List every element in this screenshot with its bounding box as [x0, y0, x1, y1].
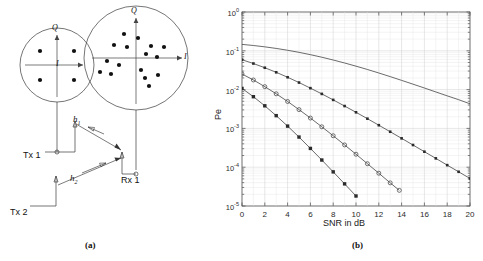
panel-a-caption: (a): [85, 240, 96, 250]
ber-chart-svg: [205, 0, 483, 230]
tx2-antenna: [30, 176, 58, 206]
marker-diversity-order-2: [423, 150, 426, 153]
marker-diversity-order-2: [366, 117, 369, 120]
tx2-label: Tx 2: [10, 207, 28, 217]
small-q-arrowhead: [55, 35, 60, 40]
large-constellation-points: [98, 32, 166, 88]
marker-diversity-order-4: [252, 95, 255, 98]
marker-diversity-order-4: [343, 182, 346, 185]
marker-diversity-order-4: [263, 104, 266, 107]
y-tick-label: 10-2: [205, 85, 239, 96]
marker-diversity-order-4: [354, 194, 357, 197]
marker-diversity-order-2: [389, 130, 392, 133]
channel-h1-path: [76, 124, 121, 150]
marker-diversity-order-2: [332, 99, 335, 102]
figure-root: Tx 1 Tx 2 Rx 1 h1 h2 I Q I Q (a) 10010-1…: [0, 0, 483, 261]
channel-h2-label: h2: [70, 173, 78, 185]
tx1-antenna: [45, 121, 77, 154]
rx1-label: Rx 1: [121, 175, 140, 185]
marker-diversity-order-2: [469, 177, 472, 180]
y-tick-label: 10-1: [205, 46, 239, 57]
rx1-antenna: [120, 152, 138, 176]
marker-diversity-order-2: [378, 124, 381, 127]
channel-h1-label: h1: [73, 114, 81, 126]
marker-diversity-order-2: [412, 144, 415, 147]
marker-diversity-order-4: [309, 147, 312, 150]
large-q-arrowhead: [134, 18, 139, 23]
marker-diversity-order-2: [264, 66, 267, 69]
small-i-arrowhead: [78, 63, 83, 68]
marker-diversity-order-2: [275, 71, 278, 74]
large-i-axis-label: I: [184, 52, 187, 61]
marker-diversity-order-2: [400, 137, 403, 140]
marker-diversity-order-4: [275, 114, 278, 117]
tx1-label: Tx 1: [23, 150, 41, 160]
channel-h2-path: [58, 157, 121, 185]
marker-diversity-order-2: [321, 93, 324, 96]
marker-diversity-order-4: [286, 124, 289, 127]
y-tick-label: 10-4: [205, 162, 239, 173]
marker-diversity-order-4: [240, 87, 243, 90]
marker-diversity-order-2: [457, 170, 460, 173]
chart-x-axis-label: SNR in dB: [205, 218, 483, 228]
large-q-axis-label: Q: [131, 6, 137, 15]
large-i-arrowhead: [177, 56, 182, 61]
y-tick-label: 10-3: [205, 123, 239, 134]
marker-diversity-order-4: [297, 135, 300, 138]
marker-diversity-order-4: [320, 158, 323, 161]
system-diagram-svg: [0, 0, 210, 230]
marker-diversity-order-2: [435, 157, 438, 160]
panel-a-system-diagram: Tx 1 Tx 2 Rx 1 h1 h2 I Q I Q (a): [0, 0, 210, 261]
marker-diversity-order-2: [355, 111, 358, 114]
small-i-axis-label: I: [56, 59, 59, 68]
panel-b-caption: (b): [352, 240, 363, 250]
small-q-axis-label: Q: [52, 23, 58, 32]
marker-diversity-order-2: [309, 87, 312, 90]
chart-plot-area-wrapper: 10010-110-210-310-410-5 0246810121416182…: [205, 0, 483, 261]
y-tick-label: 100: [205, 7, 239, 18]
marker-diversity-order-2: [446, 164, 449, 167]
marker-diversity-order-2: [252, 62, 255, 65]
marker-diversity-order-2: [286, 76, 289, 79]
marker-diversity-order-2: [298, 81, 301, 84]
panel-b-chart: 10010-110-210-310-410-5 0246810121416182…: [205, 0, 483, 261]
marker-diversity-order-2: [343, 105, 346, 108]
chart-y-axis-label: Pe: [213, 109, 223, 120]
marker-diversity-order-4: [332, 170, 335, 173]
marker-diversity-order-2: [241, 58, 244, 61]
